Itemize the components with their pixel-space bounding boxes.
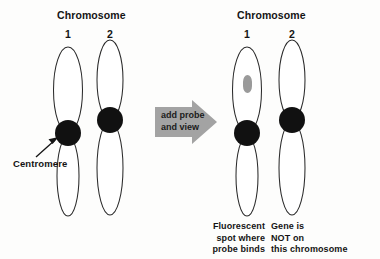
left-panel-header: Chromosome (57, 9, 126, 21)
chromosome-lower-arm (97, 121, 123, 215)
left-chromosome-1-number: 1 (65, 28, 71, 40)
caption-gene-not-present: Gene is NOT on this chromosome (271, 221, 376, 256)
centromere-disc (55, 120, 81, 146)
chromosome-lower-arm (279, 121, 305, 215)
right-chromosome-1 (233, 47, 262, 216)
chromosome-lower-arm (57, 136, 79, 216)
right-chromosome-1-number: 1 (244, 28, 250, 40)
right-chromosome-2-number: 2 (289, 28, 295, 40)
centromere-disc (97, 107, 123, 133)
process-arrow-label-line1: add probe (161, 110, 205, 122)
process-arrow-label-line2: and view (161, 122, 199, 134)
centromere-disc (234, 120, 260, 146)
left-chromosome-2-number: 2 (107, 28, 113, 40)
centromere-label: Centromere (13, 158, 67, 169)
chromosome-lower-arm (236, 136, 258, 216)
left-chromosome-2 (97, 40, 123, 215)
right-chromosome-2 (279, 40, 305, 215)
right-panel-header: Chromosome (237, 9, 306, 21)
caption-fluorescent-spot: Fluorescent spot where probe binds (185, 221, 265, 256)
left-chromosome-1 (54, 47, 83, 216)
fluorescent-probe-spot (243, 75, 252, 93)
centromere-disc (279, 107, 305, 133)
